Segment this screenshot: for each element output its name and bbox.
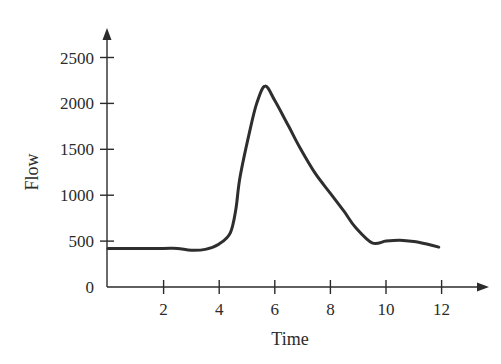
x-tick-label: 6 [271, 300, 280, 319]
y-axis-label: Flow [22, 153, 42, 190]
y-tick-label: 500 [69, 232, 95, 251]
y-axis-arrow-icon [103, 28, 112, 40]
y-tick-label: 2500 [60, 49, 94, 68]
y-tick-label: 2000 [60, 94, 94, 113]
x-tick-label: 12 [433, 300, 450, 319]
x-tick-label: 10 [378, 300, 395, 319]
x-axis-label: Time [271, 329, 308, 349]
y-tick-label: 0 [86, 278, 95, 297]
flow-line [108, 86, 439, 250]
x-tick-label: 8 [326, 300, 335, 319]
x-axis: 24681012 [107, 280, 489, 319]
x-tick-label: 2 [159, 300, 168, 319]
x-axis-arrow-icon [477, 283, 489, 292]
y-axis: 05001000150020002500 [60, 28, 114, 297]
flow-time-chart: 05001000150020002500 24681012 Time Flow [0, 0, 501, 364]
y-tick-label: 1000 [60, 186, 94, 205]
y-tick-label: 1500 [60, 140, 94, 159]
x-tick-label: 4 [215, 300, 224, 319]
